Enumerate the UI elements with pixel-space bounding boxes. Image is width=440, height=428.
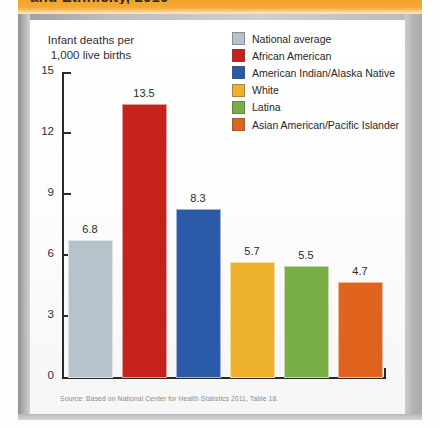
legend-item: American Indian/Alaska Native (232, 64, 412, 81)
figure-page: and Ethnicity, 2010 Infant deaths per 1,… (0, 0, 440, 428)
y-axis-tick-label: 0 (8, 369, 54, 381)
source-note: Source: Based on National Center for Hea… (60, 395, 390, 402)
bar-value-label: 5.7 (222, 245, 282, 257)
legend-item-label: Asian American/Pacific Islander (252, 119, 399, 131)
legend-item: White (232, 82, 412, 99)
legend-item: Asian American/Pacific Islander (232, 116, 412, 133)
legend-item-label: African American (252, 50, 331, 62)
bar-value-label: 5.5 (276, 249, 336, 261)
y-axis-tick-label: 15 (8, 64, 54, 76)
chart-legend: National averageAfrican AmericanAmerican… (232, 30, 412, 133)
legend-swatch-icon (232, 118, 245, 131)
legend-swatch-icon (232, 84, 245, 97)
bar-value-label: 4.7 (330, 265, 390, 277)
bar (122, 104, 167, 379)
bar-value-label: 8.3 (168, 192, 228, 204)
legend-item-label: National average (252, 33, 331, 45)
bar (338, 282, 383, 378)
y-axis-tick-label: 9 (8, 186, 54, 198)
legend-swatch-icon (232, 101, 245, 114)
legend-swatch-icon (232, 66, 245, 79)
bar (230, 262, 275, 378)
legend-item-label: American Indian/Alaska Native (252, 67, 395, 79)
bar (176, 209, 221, 378)
bar (68, 240, 113, 378)
legend-item: African American (232, 47, 412, 64)
legend-item-label: Latina (252, 101, 281, 113)
legend-swatch-icon (232, 32, 245, 45)
legend-item: Latina (232, 99, 412, 116)
legend-swatch-icon (232, 49, 245, 62)
y-axis-tick-label: 3 (8, 308, 54, 320)
y-axis-tick-label: 6 (8, 247, 54, 259)
legend-item: National average (232, 30, 412, 47)
legend-item-label: White (252, 84, 279, 96)
y-axis-tick-label: 12 (8, 125, 54, 137)
bar (284, 266, 329, 378)
bar-value-label: 6.8 (60, 223, 120, 235)
bar-value-label: 13.5 (114, 87, 174, 99)
